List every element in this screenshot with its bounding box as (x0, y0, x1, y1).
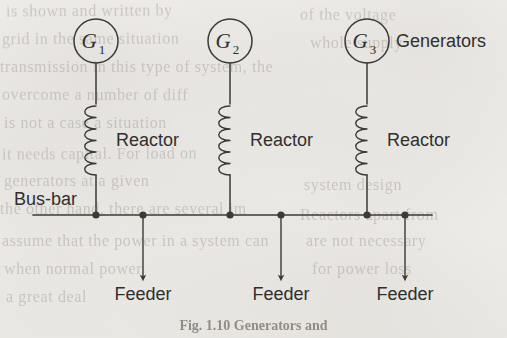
reactor-2[interactable] (219, 106, 230, 215)
generator-subscript: 3 (370, 42, 377, 57)
feeder-label: Feeder (114, 284, 171, 304)
generator-group (74, 19, 389, 104)
reactor-label: Reactor (250, 130, 313, 150)
busbar-node-generator[interactable] (226, 211, 233, 218)
circuit-diagram: G1G2G3GeneratorsReactorReactorReactorBus… (0, 0, 507, 338)
feeder-group (143, 215, 405, 278)
busbar-node-generator[interactable] (92, 211, 99, 218)
generator-subscript: 2 (233, 42, 240, 57)
reactor-label: Reactor (387, 130, 450, 150)
reactor-coil (85, 106, 96, 175)
reactor-group (85, 106, 367, 215)
reactor-label: Reactor (116, 130, 179, 150)
busbar-label: Bus-bar (14, 189, 77, 209)
busbar-group (33, 211, 432, 218)
generator-letter: G (352, 29, 367, 53)
generator-letter: G (215, 29, 230, 53)
reactor-coil (356, 106, 367, 175)
reactor-1[interactable] (85, 106, 96, 215)
feeder-label: Feeder (252, 284, 309, 304)
feeder-label: Feeder (376, 284, 433, 304)
reactor-coil (219, 106, 230, 175)
generator-subscript: 1 (99, 42, 106, 57)
busbar-node-generator[interactable] (363, 211, 370, 218)
reactor-3[interactable] (356, 106, 367, 215)
generators-label: Generators (396, 31, 486, 51)
generator-letter: G (81, 29, 96, 53)
figure-root: is shown and written bygrid in the same … (0, 0, 507, 338)
figure-caption: Fig. 1.10 Generators and (0, 318, 507, 334)
